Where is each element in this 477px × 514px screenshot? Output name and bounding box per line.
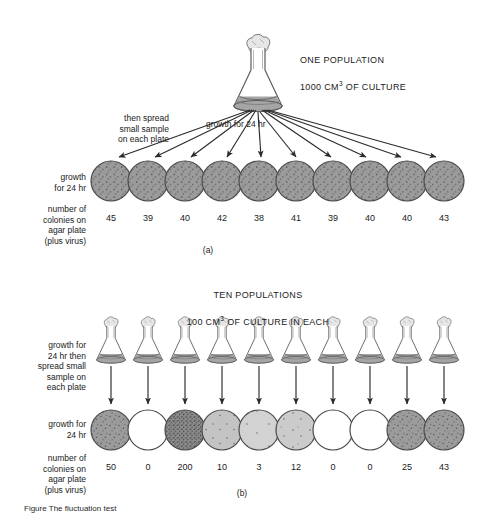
panel-a-count-4: 42	[205, 213, 239, 223]
panel-b-header-line1: TEN POPULATIONS	[213, 290, 302, 300]
panel-b-header: TEN POPULATIONS 100 CM3 OF CULTURE IN EA…	[138, 277, 378, 328]
panel-a-flask	[234, 34, 282, 111]
panel-a-spread-label: then spread small sample on each plate	[64, 113, 169, 145]
panel-b-count-5: 3	[242, 462, 276, 472]
panel-a-count-10: 43	[427, 213, 461, 223]
panel-a-count-5: 38	[242, 213, 276, 223]
panel-b-count-1: 50	[94, 462, 128, 472]
fluctuation-test-figure: ONE POPULATION 1000 CM3 OF CULTURE growt…	[0, 0, 477, 514]
panel-a-header: ONE POPULATION 1000 CM3 OF CULTURE	[300, 42, 406, 93]
panel-b-count-10: 43	[427, 462, 461, 472]
panel-b-growth-plate-label: growth for 24 hr	[14, 419, 86, 440]
panel-b-count-3: 200	[168, 462, 202, 472]
panel-b-count-7: 0	[316, 462, 350, 472]
panel-b-count-4: 10	[205, 462, 239, 472]
panel-a-count-6: 41	[279, 213, 313, 223]
panel-a-header-line1: ONE POPULATION	[300, 55, 384, 65]
panel-a-growth-label: growth for 24 hr	[206, 119, 266, 130]
panel-a-header-line2: 1000 CM3 OF CULTURE	[300, 82, 406, 92]
panel-b-plates	[91, 410, 464, 450]
panel-b-id: (b)	[222, 488, 262, 498]
panel-a-count-label: number of colonies on agar plate (plus v…	[16, 204, 86, 246]
panel-a-plates	[91, 161, 464, 201]
panel-a-count-8: 40	[353, 213, 387, 223]
panel-b-down-arrows	[111, 366, 444, 404]
panel-a-count-9: 40	[390, 213, 424, 223]
panel-a-count-2: 39	[131, 213, 165, 223]
panel-b-count-label: number of colonies on agar plate (plus v…	[14, 453, 86, 495]
panel-a-id: (a)	[188, 245, 228, 255]
panel-a-count-3: 40	[168, 213, 202, 223]
panel-b-count-8: 0	[353, 462, 387, 472]
panel-b-growth-spread-label: growth for 24 hr then spread small sampl…	[14, 340, 86, 393]
panel-b-header-line2: 100 CM3 OF CULTURE IN EACH	[187, 317, 330, 327]
panel-b-count-6: 12	[279, 462, 313, 472]
panel-b-count-9: 25	[390, 462, 424, 472]
panel-b-count-2: 0	[131, 462, 165, 472]
panel-a-count-1: 45	[94, 213, 128, 223]
panel-a-count-7: 39	[316, 213, 350, 223]
panel-a-growth-plate-label: growth for 24 hr	[24, 172, 86, 193]
figure-caption: Figure The fluctuation test	[24, 503, 454, 514]
